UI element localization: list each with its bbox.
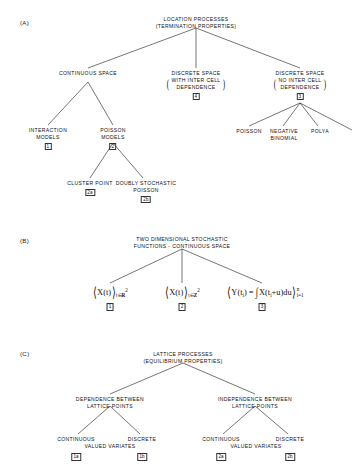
node-interaction-models: INTERACTION MODELS 1 (29, 127, 67, 150)
paren-right: ) (324, 79, 327, 89)
angle-bracket-open-icon: ⟨ (93, 284, 97, 301)
formula-b1: ⟨X(t)⟩t∈R2 (92, 284, 128, 301)
node-right-continuous: CONTINUOUS (202, 436, 240, 443)
formula-lower-limit: i=1 (297, 293, 304, 298)
node-line: CONTINUOUS SPACE (59, 70, 117, 77)
node-line: DOUBLY STOCHASTIC (116, 180, 177, 187)
edge-indep-continuous (223, 406, 255, 434)
node-line: DEPENDENCE BETWEEN (76, 396, 144, 403)
node-line: CONTINUOUS (57, 436, 95, 443)
node-right-discrete: DISCRETE (276, 436, 305, 443)
node-index-right-discrete: 2b (285, 453, 295, 461)
edge-indep-discrete (255, 406, 288, 434)
paren-left: ( (274, 79, 277, 89)
node-line: LOCATION PROCESSES (156, 16, 237, 23)
node-cluster-point: CLUSTER POINT 2a (67, 180, 112, 196)
node-line: DISCRETE SPACE (276, 70, 325, 76)
edge-root-continuous (88, 28, 196, 68)
node-line: NEGATIVE (270, 128, 298, 135)
node-index-right-continuous: 2a (216, 453, 226, 461)
node-dependence-between-lattice-points: DEPENDENCE BETWEEN LATTICE POINTS (76, 396, 144, 410)
formula-index-b1: 1 (107, 303, 114, 311)
paren-right: ) (223, 79, 226, 89)
paren-left: ( (167, 79, 170, 89)
node-right-valued-variates: VALUED VARIATES (230, 443, 281, 450)
formula-b3: ⟨Y(ti) = ∫X(ti+u)du⟩ni=1 (226, 284, 303, 301)
paren-group: ( WITH INTER CELL DEPENDENCE ) (166, 77, 227, 91)
node-index: 3 (296, 93, 303, 101)
formula-symbol-integers: Z (194, 292, 197, 298)
section-tag-a: (A) (20, 19, 29, 26)
angle-bracket-close-icon: ⟩ (184, 284, 188, 301)
formula-symbol-X: X (259, 288, 265, 297)
formula-symbol-u: u (276, 288, 280, 297)
node-left-continuous: CONTINUOUS (57, 436, 95, 443)
formula-symbol-X: X (169, 288, 175, 297)
node-line: POISSON (236, 128, 262, 135)
node-doubly-stochastic-poisson: DOUBLY STOCHASTIC POISSON 2b (116, 180, 177, 203)
formula-limits: ni=1 (297, 287, 304, 297)
node-index: 1 (44, 143, 51, 151)
node-line: BINOMIAL (270, 135, 298, 142)
paren-group: ( NO INTER CELL DEPENDENCE ) (273, 77, 327, 91)
node-index: 2a (85, 189, 95, 197)
formula-subscript: t∈Z (188, 292, 197, 298)
edge-nointer-polya (300, 103, 318, 126)
node-line: DEPENDENCE (278, 84, 321, 91)
edge-c-root-dependence (110, 363, 183, 394)
node-index-left-continuous: 1a (71, 453, 81, 461)
angle-bracket-open-icon: ⟨ (227, 284, 231, 301)
node-line: POLYA (311, 128, 329, 135)
node-polya: POLYA (311, 128, 329, 135)
node-index-left-discrete: 1b (137, 453, 147, 461)
node-line: INTERACTION (29, 127, 67, 134)
node-line: LATTICE PROCESSES (143, 351, 222, 358)
node-line: POISSON (116, 187, 177, 194)
node-line: FUNCTIONS - CONTINUOUS SPACE (134, 243, 231, 250)
node-location-processes: LOCATION PROCESSES (TERMINATION PROPERTI… (156, 16, 237, 30)
formula-symbol-Y: Y (231, 288, 237, 297)
edge-nointer-poisson (249, 103, 300, 126)
node-line: DEPENDENCE (171, 84, 220, 91)
formula-b2: ⟨X(t)⟩t∈Z2 (164, 284, 200, 301)
node-line: CLUSTER POINT (67, 180, 112, 187)
edge-c-root-independence (183, 363, 255, 394)
node-line: CONTINUOUS (202, 436, 240, 443)
node-independence-between-lattice-points: INDEPENDENCE BETWEEN LATTICE POINTS (218, 396, 292, 410)
formula-subscript-i: i (243, 292, 244, 298)
node-discrete-space-inter: DISCRETE SPACE ( WITH INTER CELL DEPENDE… (166, 70, 227, 100)
node-discrete-space-nointer: DISCRETE SPACE ( NO INTER CELL DEPENDENC… (273, 70, 327, 100)
angle-bracket-close-icon: ⟩ (112, 284, 116, 301)
angle-bracket-open-icon: ⟨ (165, 284, 169, 301)
node-poisson-models: POISSON MODELS 2 (100, 127, 126, 150)
node-line: NO INTER CELL (278, 77, 321, 84)
formula-index-b3: 3 (259, 303, 266, 311)
edge-nointer-extra (300, 103, 352, 130)
node-left-discrete: DISCRETE (128, 436, 157, 443)
formula-symbol-t: t (178, 288, 180, 297)
node-lattice-processes: LATTICE PROCESSES (EQUILIBRIUM PROPERTIE… (143, 351, 222, 365)
node-line: WITH INTER CELL (171, 77, 220, 84)
edge-dep-continuous (78, 406, 110, 434)
paren-content: WITH INTER CELL DEPENDENCE (171, 77, 220, 91)
formula-exponent: 2 (197, 287, 200, 293)
node-line: DISCRETE (276, 436, 305, 443)
edge-b-root-f1 (110, 249, 182, 283)
node-line: LATTICE POINTS (76, 403, 144, 410)
edge-dep-discrete (110, 406, 140, 434)
node-index: 4 (192, 93, 199, 101)
node-line: DISCRETE SPACE (172, 70, 221, 76)
node-line: (TERMINATION PROPERTIES) (156, 23, 237, 30)
node-line: VALUED VARIATES (230, 443, 281, 450)
node-continuous-space: CONTINUOUS SPACE (59, 70, 117, 77)
node-index: 2 (109, 143, 116, 151)
paren-content: NO INTER CELL DEPENDENCE (278, 77, 321, 91)
node-left-valued-variates: VALUED VARIATES (84, 443, 135, 450)
section-tag-c: (C) (20, 350, 30, 357)
formula-symbol-reals: R (122, 292, 126, 298)
edge-root-discrete-nointer (196, 28, 300, 68)
node-line: INDEPENDENCE BETWEEN (218, 396, 292, 403)
formula-subscript: t∈R (116, 292, 125, 298)
formula-symbol-eq: = (249, 288, 254, 297)
edge-nointer-negbinom (283, 103, 300, 126)
